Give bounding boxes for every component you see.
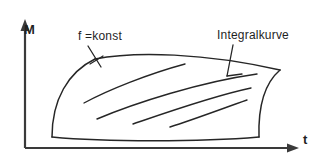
region-left-edge [52, 59, 95, 137]
integral-curve [84, 64, 185, 103]
region-right-edge [259, 70, 280, 137]
integral-curve [133, 88, 251, 124]
integral-curve [170, 100, 247, 127]
figure-container: M t f =konst Integralkurve [0, 0, 321, 168]
annotation-label-integralkurve: Integralkurve [217, 29, 289, 41]
vertical-axis [21, 19, 30, 148]
region-top-edge [95, 54, 280, 70]
integralkurve-leader-tick [227, 74, 242, 76]
integral-curve [97, 74, 257, 119]
axis-label-m: M [24, 23, 35, 36]
integral-curves-group [84, 64, 257, 127]
region-bottom-edge [52, 137, 259, 141]
bounded-region-outline [52, 54, 280, 140]
right-arrow-icon [287, 144, 299, 153]
axis-label-t: t [303, 133, 307, 146]
horizontal-axis [25, 144, 299, 153]
diagram-canvas [0, 0, 321, 168]
f-konst-leader [88, 46, 103, 67]
annotation-label-f-konst: f =konst [78, 30, 122, 42]
